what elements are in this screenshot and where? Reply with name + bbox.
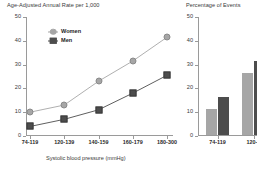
- bar-men: [218, 97, 229, 135]
- y-tick: [23, 65, 26, 66]
- data-point-women: [129, 58, 136, 65]
- y-tick: [195, 17, 198, 18]
- x-tick-label: 74-119: [209, 140, 226, 145]
- y-axis-bar: [198, 17, 199, 136]
- bar-women: [206, 109, 217, 135]
- legend-swatch-men: [48, 38, 58, 43]
- data-point-women: [164, 34, 171, 41]
- x-tick-label: 140-159: [89, 140, 109, 145]
- x-axis-bar: [198, 135, 257, 136]
- legend-label-men: Men: [61, 36, 72, 45]
- x-tick-label: 120-1: [247, 140, 257, 145]
- y-tick: [195, 112, 198, 113]
- y-tick-label: 50: [187, 14, 193, 20]
- x-tick-label: 74-119: [22, 140, 39, 145]
- chart-panel-line: Age-Adjusted Annual Rate per 1,000 01020…: [0, 0, 182, 171]
- y-tick-label: 20: [187, 86, 193, 92]
- data-point-men: [27, 123, 34, 130]
- data-point-men: [95, 106, 102, 113]
- y-tick-label: 10: [15, 109, 21, 115]
- bar-men: [254, 61, 257, 135]
- y-tick: [195, 65, 198, 66]
- plot-area-bar: 01020304050 74-119120-1: [198, 17, 257, 136]
- y-tick-label: 30: [15, 62, 21, 68]
- y-tick: [195, 88, 198, 89]
- data-point-women: [95, 78, 102, 85]
- legend-swatch-women: [48, 29, 58, 34]
- y-tick: [195, 41, 198, 42]
- legend-item-women: Women: [48, 27, 81, 36]
- data-point-women: [61, 102, 68, 109]
- y-tick: [23, 41, 26, 42]
- figure-canvas: Age-Adjusted Annual Rate per 1,000 01020…: [0, 0, 257, 171]
- data-point-men: [61, 116, 68, 123]
- chart-title-bar: Percentage of Events: [186, 2, 241, 8]
- line-series-women: [30, 37, 167, 112]
- y-tick-label: 10: [187, 109, 193, 115]
- data-point-women: [27, 109, 34, 116]
- chart-title-line: Age-Adjusted Annual Rate per 1,000: [7, 2, 100, 8]
- x-tick-label: 180-300: [157, 140, 177, 145]
- data-point-men: [164, 72, 171, 79]
- x-tick-label: 160-179: [123, 140, 143, 145]
- y-tick: [23, 136, 26, 137]
- y-tick-label: 20: [15, 86, 21, 92]
- bar-women: [242, 73, 253, 135]
- y-tick: [23, 88, 26, 89]
- x-axis-caption-line: Systolic blood pressure (mmHg): [46, 155, 126, 161]
- data-point-men: [129, 90, 136, 97]
- y-tick: [23, 17, 26, 18]
- y-tick: [23, 112, 26, 113]
- legend-line: Women Men: [48, 27, 81, 45]
- y-tick-label: 40: [187, 38, 193, 44]
- y-tick-label: 0: [190, 133, 193, 139]
- y-tick-label: 0: [18, 133, 21, 139]
- y-tick-label: 50: [15, 14, 21, 20]
- x-tick-label: 120-139: [54, 140, 74, 145]
- y-tick: [195, 136, 198, 137]
- y-tick-label: 40: [15, 38, 21, 44]
- legend-item-men: Men: [48, 36, 81, 45]
- chart-panel-bar: Percentage of Events 01020304050 74-1191…: [182, 0, 257, 171]
- legend-label-women: Women: [61, 27, 81, 36]
- y-tick-label: 30: [187, 62, 193, 68]
